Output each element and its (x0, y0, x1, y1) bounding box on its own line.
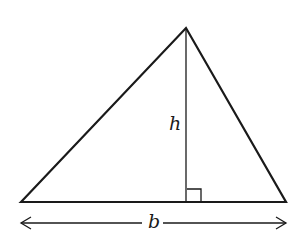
right-angle-marker (187, 189, 201, 202)
triangle (21, 28, 286, 202)
triangle-diagram: h b (0, 0, 301, 251)
height-label: h (169, 114, 181, 133)
base-label: b (145, 212, 163, 231)
